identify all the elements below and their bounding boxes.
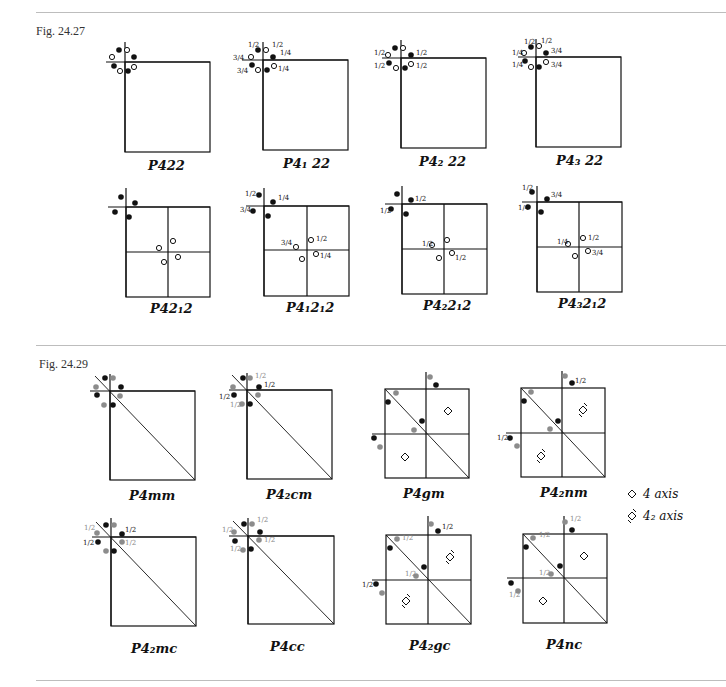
svg-text:3/4: 3/4 [551,191,563,199]
panel-p42cm [229,373,332,479]
panel-p4nc [507,516,607,623]
points-p41212 [250,192,318,261]
svg-text:1/4: 1/4 [557,238,569,246]
svg-text:1/2: 1/2 [264,381,275,389]
svg-text:1/2: 1/2 [248,41,259,49]
svg-text:1/4: 1/4 [278,65,290,73]
svg-text:1/2: 1/2 [455,254,466,262]
svg-text:3/4: 3/4 [237,67,249,75]
fraction-labels: 3/4 1/2 1/2 1/4 3/4 1/4 1/2 1/2 1/2 1/2 … [83,37,604,599]
caption-p4nc: P4nc [545,637,582,652]
panel-p43212 [522,186,622,292]
panel-p42212 [385,186,487,294]
panel-p42mc [92,518,196,626]
svg-text:1/2: 1/2 [374,49,385,57]
caption-p43212: P4₃2₁2 [557,296,606,311]
svg-text:1/2: 1/2 [416,49,427,57]
caption-p42nm: P4₂nm [539,485,588,500]
caption-p4322: P4₃ 22 [555,153,603,168]
diamond-tail-icon [628,509,636,523]
svg-text:1/2: 1/2 [402,534,413,542]
caption-p4cc: P4cc [269,639,305,654]
svg-text:1/2: 1/2 [380,207,391,215]
svg-text:1/2: 1/2 [316,235,327,243]
svg-text:1/2: 1/2 [442,523,453,531]
caption-p42cm: P4₂cm [265,487,312,502]
legend: 4 axis 4₂ axis [628,487,683,523]
svg-text:1/2: 1/2 [522,184,533,192]
points-p43212 [525,189,590,258]
svg-text:3/4: 3/4 [551,61,563,69]
caption-p41212: P4₁2₁2 [285,300,334,315]
svg-text:1/4: 1/4 [512,61,524,69]
svg-text:1/2: 1/2 [374,62,385,70]
svg-text:1/2: 1/2 [575,377,586,385]
caption-p4212: P42₁2 [149,301,193,316]
svg-text:1/4: 1/4 [280,49,292,57]
panel-p4mm [90,374,195,480]
caption-p42mc: P4₂mc [130,641,177,656]
panel-p4222 [382,40,486,148]
svg-text:3/4: 3/4 [551,47,563,55]
svg-text:1/2: 1/2 [541,37,552,45]
caption-p4mm: P4mm [128,488,175,503]
svg-text:1/2: 1/2 [264,536,275,544]
svg-text:1/4: 1/4 [278,194,290,202]
svg-text:1/2: 1/2 [405,570,416,578]
svg-text:1/2: 1/2 [588,234,599,242]
svg-text:3/4: 3/4 [240,206,252,214]
points-p42nm [507,373,587,463]
diamond-icon [628,490,636,498]
panel-p41212 [246,188,349,296]
svg-text:1/2: 1/2 [245,190,256,198]
svg-text:1/4: 1/4 [518,204,530,212]
svg-text:1/4: 1/4 [512,49,524,57]
points-p4212 [112,194,180,264]
panel-p4gm [372,372,469,478]
svg-text:3/4: 3/4 [592,249,604,257]
panel-p4122 [242,42,348,150]
svg-text:1/2: 1/2 [570,515,581,523]
panel-p422 [106,42,210,152]
caption-p4222: P4₂ 22 [418,154,466,169]
svg-text:1/2: 1/2 [84,524,95,532]
svg-text:1/2: 1/2 [497,434,508,442]
svg-text:3/4: 3/4 [233,54,245,62]
svg-text:1/2: 1/2 [362,581,373,589]
panel-p4212 [108,188,210,297]
svg-text:1/2: 1/2 [539,569,550,577]
svg-text:1/2: 1/2 [257,516,268,524]
svg-text:1/2: 1/2 [230,401,241,409]
caption-p42gc: P4₂gc [408,638,451,653]
svg-text:1/2: 1/2 [415,195,426,203]
panel-p4322 [518,39,621,147]
svg-text:1/2: 1/2 [524,38,535,46]
svg-text:1/2: 1/2 [422,240,433,248]
points-p42gc [373,521,454,608]
caption-p4gm: P4gm [402,486,445,501]
caption-p42212: P4₂2₁2 [422,298,471,313]
panel-p42nm [506,371,605,477]
panel-p4cc [229,518,334,624]
svg-text:1/2: 1/2 [539,531,550,539]
svg-text:1/2: 1/2 [255,372,266,380]
svg-text:1/2: 1/2 [125,526,136,534]
legend-42-axis: 4₂ axis [642,509,683,523]
svg-text:1/2: 1/2 [219,393,230,401]
legend-4-axis: 4 axis [642,487,678,501]
svg-text:1/2: 1/2 [272,41,283,49]
svg-text:1/2: 1/2 [125,539,136,547]
svg-text:1/2: 1/2 [416,62,427,70]
svg-text:1/2: 1/2 [230,545,241,553]
caption-p4122: P4₁ 22 [282,156,330,171]
svg-text:1/2: 1/2 [222,526,233,534]
points-p42mc [94,522,125,554]
svg-text:3/4: 3/4 [281,239,293,247]
points-p422 [109,47,136,74]
svg-text:1/2: 1/2 [83,539,94,547]
svg-text:1/2: 1/2 [509,591,520,599]
caption-p422: P422 [147,158,185,173]
panel-p42gc [372,516,471,624]
svg-text:1/4: 1/4 [320,252,332,260]
